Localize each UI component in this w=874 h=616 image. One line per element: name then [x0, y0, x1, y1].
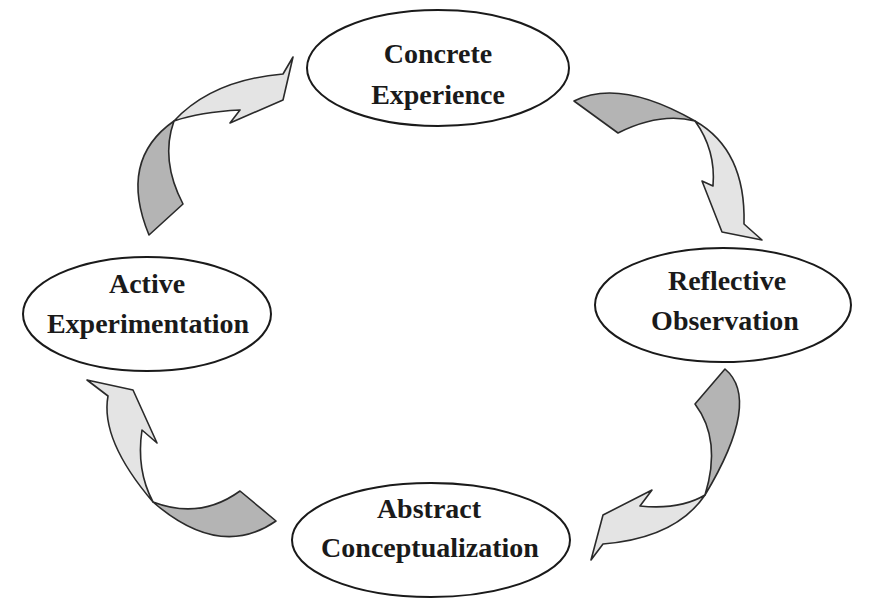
arrow-concrete-to-reflective: [574, 93, 762, 240]
arrow-head-top-left: [174, 57, 293, 123]
arrow-tail-top-left: [138, 121, 183, 235]
node-abstract-conceptualization: Abstract Conceptualization: [292, 483, 570, 597]
learning-cycle-diagram: Concrete Experience Reflective Observati…: [0, 0, 874, 616]
arrow-head-top-right: [695, 121, 762, 240]
arrow-abstract-to-active: [87, 380, 276, 537]
node-label-line2: Experimentation: [47, 308, 250, 339]
node-reflective-observation: Reflective Observation: [595, 248, 851, 362]
node-label-line1: Active: [109, 268, 185, 299]
node-label-line2: Conceptualization: [321, 532, 539, 563]
node-label-line2: Experience: [371, 79, 505, 110]
node-label-line2: Observation: [651, 305, 799, 336]
arrow-head-bottom-left: [87, 380, 157, 502]
node-label-line1: Abstract: [377, 493, 482, 524]
arrow-active-to-concrete: [138, 57, 293, 235]
arrow-reflective-to-abstract: [591, 369, 740, 560]
node-concrete-experience: Concrete Experience: [307, 10, 569, 126]
node-label-line1: Concrete: [384, 38, 492, 69]
arrow-tail-bottom-left: [153, 491, 276, 537]
arrow-head-bottom-right: [591, 490, 705, 560]
node-label-line1: Reflective: [668, 265, 786, 296]
arrow-tail-top-right: [574, 93, 695, 133]
arrow-tail-bottom-right: [695, 369, 740, 495]
node-active-experimentation: Active Experimentation: [23, 257, 271, 371]
